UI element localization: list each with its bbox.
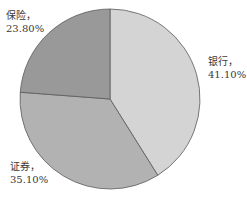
label-bank-pct: 41.10% [208,68,246,81]
label-insurance: 保险， 23.80% [6,9,44,35]
label-securities: 证券， 35.10% [10,160,48,186]
label-bank-name: 银行， [208,55,246,68]
label-bank: 银行， 41.10% [208,55,246,81]
label-insurance-name: 保险， [6,9,44,22]
label-securities-pct: 35.10% [10,173,48,186]
label-insurance-pct: 23.80% [6,22,44,35]
label-securities-name: 证券， [10,160,48,173]
